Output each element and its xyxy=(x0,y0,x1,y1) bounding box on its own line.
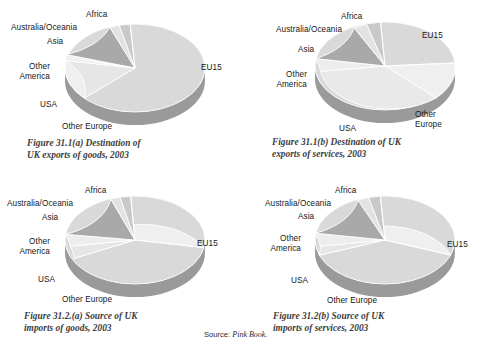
caption-line-1: Figure 31.2.(a) Source of UK xyxy=(24,311,138,321)
figure-31-1-a: EU15 Other Europe USA Other America Asia… xyxy=(0,0,249,176)
figure-31-1-b: EU15 Other Europe USA Other America Asia… xyxy=(249,0,498,176)
pie-label-africa: Africa xyxy=(86,10,107,20)
pie-label-australia-oceania: Australia/Oceania xyxy=(265,199,331,209)
pie-label-other-europe: Other Europe xyxy=(62,295,112,305)
figure-caption: Figure 31.1(b) Destination of UK exports… xyxy=(272,137,462,160)
pie-label-usa: USA xyxy=(291,276,308,286)
pie-label-other-europe: Other Europe xyxy=(327,296,377,306)
pie-label-australia-oceania: Australia/Oceania xyxy=(11,23,77,33)
pie-label-other-america: Other America xyxy=(251,234,301,253)
caption-line-2: exports of services, 2003 xyxy=(272,149,366,159)
pie-label-other-america: Other America xyxy=(0,62,50,81)
source-note-value: Pink Book. xyxy=(232,330,267,339)
caption-line-1: Figure 31.1(b) Destination of UK xyxy=(272,137,401,147)
caption-line-1: Figure 31.1(a) Destination of xyxy=(27,138,141,148)
pie-svg-imports-goods xyxy=(62,188,208,292)
pie-label-africa: Africa xyxy=(341,12,362,22)
caption-line-2: imports of services, 2003 xyxy=(273,323,368,333)
figure-caption: Figure 31.1(a) Destination of UK exports… xyxy=(27,138,217,161)
figure-31-2-b: EU15 Other Europe USA Other America Asia… xyxy=(249,177,498,353)
pie-chart-exports-goods xyxy=(62,16,208,120)
figure-caption: Figure 31.2.(a) Source of UK imports of … xyxy=(24,311,214,334)
pie-label-usa: USA xyxy=(40,100,57,110)
pie-svg-exports-goods xyxy=(62,16,208,120)
pie-label-other-america: Other America xyxy=(257,70,307,89)
source-note: Source: Pink Book. xyxy=(204,330,267,339)
pie-label-other-europe: Other Europe xyxy=(62,122,112,132)
figure-31-2-a: EU15 Other Europe USA Other America Asia… xyxy=(0,177,249,353)
pie-svg-imports-services xyxy=(312,188,458,292)
pie-label-eu15: EU15 xyxy=(447,240,468,250)
pie-label-africa: Africa xyxy=(335,186,356,196)
source-note-prefix: Source: xyxy=(204,330,230,339)
pie-label-eu15: EU15 xyxy=(422,31,443,41)
pie-label-australia-oceania: Australia/Oceania xyxy=(276,25,342,35)
pie-label-australia-oceania: Australia/Oceania xyxy=(7,199,73,209)
pie-label-asia: Asia xyxy=(298,45,314,55)
caption-line-2: imports of goods, 2003 xyxy=(24,323,112,333)
pie-label-usa: USA xyxy=(38,275,55,285)
pie-label-africa: Africa xyxy=(85,186,106,196)
pie-label-asia: Asia xyxy=(47,37,63,47)
pie-label-asia: Asia xyxy=(298,212,314,222)
pie-label-eu15: EU15 xyxy=(197,239,218,249)
pie-label-eu15: EU15 xyxy=(201,63,222,73)
pie-label-other-america: Other America xyxy=(0,237,50,256)
pie-chart-imports-services xyxy=(312,188,458,292)
pie-label-usa: USA xyxy=(339,124,356,134)
figure-caption: Figure 31.2(b) Source of UK imports of s… xyxy=(273,311,463,334)
pie-label-asia: Asia xyxy=(42,213,58,223)
pie-chart-imports-goods xyxy=(62,188,208,292)
pie-label-other-europe: Other Europe xyxy=(415,110,461,129)
caption-line-2: UK exports of goods, 2003 xyxy=(27,150,129,160)
caption-line-1: Figure 31.2(b) Source of UK xyxy=(273,311,384,321)
